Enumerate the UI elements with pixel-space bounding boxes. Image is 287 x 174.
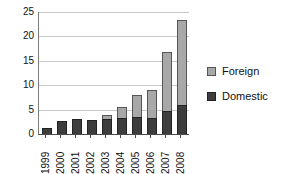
bar-group[interactable]: [132, 12, 142, 134]
bar-group[interactable]: [72, 12, 82, 134]
x-tick: [105, 134, 106, 138]
y-tick-label: 20: [23, 31, 34, 41]
bar-group[interactable]: [42, 12, 52, 134]
bar-group[interactable]: [57, 12, 67, 134]
y-tick-label: 0: [28, 129, 34, 139]
x-tick-label: 2007: [161, 139, 171, 174]
bar-segment-domestic[interactable]: [117, 118, 127, 134]
x-tick-label: 2003: [101, 139, 111, 174]
x-tick-label: 2006: [146, 139, 156, 174]
x-tick: [150, 134, 151, 138]
x-tick-label: 2005: [131, 139, 141, 174]
x-tick-label: 2000: [56, 139, 66, 174]
bar-segment-foreign[interactable]: [177, 20, 187, 104]
x-tick-label: 2001: [71, 139, 81, 174]
bar-segment-domestic[interactable]: [102, 119, 112, 134]
x-tick: [120, 134, 121, 138]
bar-segment-domestic[interactable]: [177, 105, 187, 134]
y-tick-label: 25: [23, 7, 34, 17]
y-tick-label: 5: [28, 105, 34, 115]
x-axis-ticks: [38, 134, 188, 138]
x-tick: [60, 134, 61, 138]
bar-segment-domestic[interactable]: [132, 117, 142, 134]
y-axis: 0510152025: [0, 0, 38, 140]
bar-segment-foreign[interactable]: [132, 95, 142, 117]
bar-segment-foreign[interactable]: [147, 90, 157, 118]
x-axis: 1999200020012002200320042005200620072008: [38, 139, 188, 174]
x-tick: [45, 134, 46, 138]
bars-layer: [39, 12, 189, 134]
domestic-swatch-icon: [207, 92, 216, 101]
bar-group[interactable]: [177, 12, 187, 134]
legend-label: Domestic: [222, 91, 268, 102]
bar-group[interactable]: [162, 12, 172, 134]
x-tick: [90, 134, 91, 138]
x-tick-label: 2008: [176, 139, 186, 174]
x-tick-label: 2004: [116, 139, 126, 174]
bar-segment-foreign[interactable]: [117, 107, 127, 118]
foreign-swatch-icon: [207, 67, 216, 76]
x-tick: [165, 134, 166, 138]
plot-area: [38, 12, 189, 135]
bar-segment-domestic[interactable]: [147, 118, 157, 134]
bar-segment-domestic[interactable]: [72, 119, 82, 134]
stacked-bar-chart: 0510152025 19992000200120022003200420052…: [0, 0, 287, 174]
x-tick: [180, 134, 181, 138]
bar-group[interactable]: [117, 12, 127, 134]
bar-segment-foreign[interactable]: [162, 52, 172, 111]
legend-item-domestic[interactable]: Domestic: [207, 91, 287, 102]
y-tick-label: 10: [23, 80, 34, 90]
chart-legend: ForeignDomestic: [207, 66, 287, 116]
bar-group[interactable]: [87, 12, 97, 134]
x-tick: [135, 134, 136, 138]
y-tick-label: 15: [23, 56, 34, 66]
legend-item-foreign[interactable]: Foreign: [207, 66, 287, 77]
x-tick: [75, 134, 76, 138]
legend-label: Foreign: [222, 66, 259, 77]
bar-segment-domestic[interactable]: [57, 121, 67, 134]
x-tick-label: 2002: [86, 139, 96, 174]
x-tick-label: 1999: [41, 139, 51, 174]
bar-segment-domestic[interactable]: [87, 120, 97, 134]
bar-segment-domestic[interactable]: [162, 111, 172, 134]
bar-group[interactable]: [102, 12, 112, 134]
bar-group[interactable]: [147, 12, 157, 134]
